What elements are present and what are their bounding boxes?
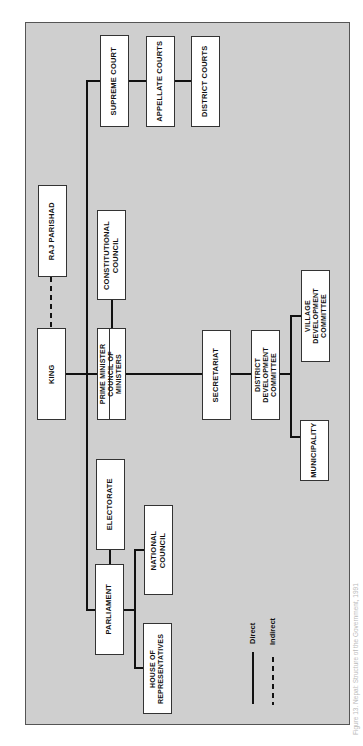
node-raj-parishad: RAJ PARISHAD: [38, 185, 67, 277]
node-label: DISTRICT COURTS: [201, 46, 210, 117]
node-label: SUPREME COURT: [110, 47, 119, 115]
node-label: ELECTORATE: [106, 478, 115, 530]
connector-pm-constitutional: [111, 300, 113, 328]
connector-branch-national: [134, 549, 144, 551]
node-electorate: ELECTORATE: [96, 459, 125, 550]
connector-ddc-branch: [290, 315, 292, 438]
node-label: NATIONAL COUNCIL: [150, 530, 167, 570]
connector-branch-house: [134, 667, 143, 669]
node-label: MUNICIPALITY: [310, 423, 319, 478]
node-secretariat: SECRETARIAT: [202, 330, 231, 420]
legend-indirect-label: Indirect: [268, 618, 277, 645]
connector-ddc-village: [290, 315, 301, 317]
connector-king-rajparishad: [50, 277, 52, 328]
node-national-council: NATIONAL COUNCIL: [144, 505, 173, 595]
figure-caption: Figure 13. Nepal: Structure of the Gover…: [352, 583, 359, 735]
connector-chambers-branch: [134, 549, 136, 669]
node-label: KING: [47, 364, 56, 384]
legend-direct-line: [252, 652, 254, 704]
node-label: RAJ PARISHAD: [48, 202, 57, 260]
node-house-of-representatives: HOUSE OF REPRESENTATIVES: [143, 623, 172, 714]
node-supreme-court: SUPREME COURT: [100, 35, 129, 127]
node-label: SECRETARIAT: [212, 348, 221, 402]
connector-appellate-district: [175, 80, 191, 82]
node-king: KING: [37, 328, 66, 420]
connector-ddc-municipality: [290, 436, 300, 438]
legend-indirect-line: [272, 657, 274, 705]
node-village-development-committee: VILLAGE DEVELOPMENT COMMITTEE: [301, 270, 330, 362]
node-district-courts: DISTRICT COURTS: [191, 36, 220, 127]
node-label: PARLIAMENT: [105, 584, 114, 635]
node-label: DISTRICT DEVELOPMENT COMMITTEE: [254, 347, 278, 402]
legend-direct-label: Direct: [248, 623, 257, 644]
node-district-development-committee: DISTRICT DEVELOPMENT COMMITTEE: [251, 330, 280, 420]
node-constitutional-council: CONSTITUTIONAL COUNCIL: [97, 210, 126, 300]
node-label: HOUSE OF REPRESENTATIVES: [150, 633, 166, 703]
node-parliament: PARLIAMENT: [95, 564, 124, 655]
connector-trunk-supreme: [86, 80, 101, 82]
node-appellate-courts: APPELLATE COURTS: [146, 36, 175, 127]
node-label: PRIME MINISTER COUNCIL OF MINISTERS: [100, 344, 124, 404]
node-label: CONSTITUTIONAL COUNCIL: [103, 220, 120, 289]
node-municipality: MUNICIPALITY: [300, 420, 329, 481]
connector-parliament-electorate: [109, 550, 111, 564]
node-label: APPELLATE COURTS: [156, 41, 165, 122]
node-prime-minister: PRIME MINISTER COUNCIL OF MINISTERS: [97, 328, 126, 420]
connector-trunk: [86, 80, 88, 610]
node-label: VILLAGE DEVELOPMENT COMMITTEE: [304, 288, 328, 343]
connector-supreme-appellate: [129, 80, 146, 82]
